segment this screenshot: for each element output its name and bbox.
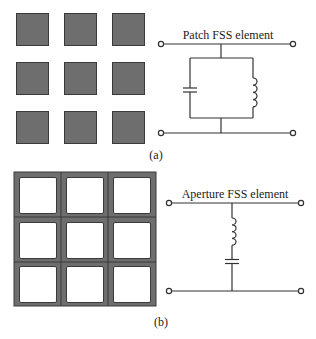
aperture-array [14,172,156,306]
terminal-icon [158,41,163,46]
terminal-icon [166,288,171,293]
aperture-element [114,267,151,303]
aperture-element [20,267,57,303]
patch-element [65,112,97,144]
aperture-element [20,223,57,259]
patch-array [17,14,145,144]
terminal-icon [166,200,171,205]
aperture-circuit-title: Aperture FSS element [182,187,289,201]
patch-element [17,112,49,144]
patch-element [17,63,49,95]
patch-element [65,14,97,46]
aperture-element [114,223,151,259]
panel-a-label: (a) [149,148,162,162]
patch-circuit [158,41,295,135]
aperture-element [20,178,57,214]
aperture-element [67,267,104,303]
patch-element [113,63,145,95]
panel-b-label: (b) [154,315,168,329]
terminal-icon [298,200,303,205]
aperture-element [67,178,104,214]
terminal-icon [158,130,163,135]
panel-b: Aperture FSS element (b) [14,172,304,329]
patch-element [17,14,49,46]
patch-element [113,112,145,144]
inductor-icon [232,218,236,245]
terminal-icon [290,130,295,135]
terminal-icon [298,288,303,293]
patch-element [65,63,97,95]
capacitor-icon [225,260,239,264]
capacitor-icon [183,58,197,118]
inductor-icon [253,58,257,118]
patch-element [113,14,145,46]
panel-a: Patch FSS element [17,14,296,163]
patch-circuit-title: Patch FSS element [183,28,274,42]
terminal-icon [290,41,295,46]
aperture-element [67,223,104,259]
aperture-circuit [166,200,303,293]
aperture-element [114,178,151,214]
